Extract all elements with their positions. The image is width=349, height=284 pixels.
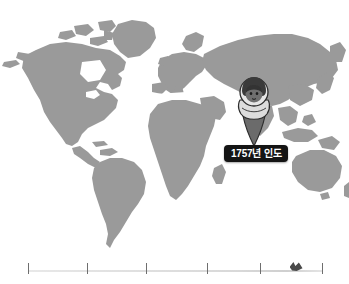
madagascar-shape [212, 164, 226, 184]
southeast-asia-shape [278, 106, 298, 126]
philippines-shape [302, 114, 316, 126]
timeline-tick [207, 263, 208, 274]
central-america-shape [72, 146, 100, 168]
left-eye-icon [250, 92, 253, 95]
africa-shape [148, 100, 216, 200]
history-timeline[interactable] [0, 255, 349, 284]
new-zealand-shape [344, 182, 349, 198]
australia-shape [292, 150, 342, 192]
aleutians-shape [2, 60, 20, 68]
china-east-shape [288, 84, 314, 106]
timeline-tick [87, 263, 88, 274]
timeline-tick [28, 263, 29, 274]
north-america-shape [22, 42, 126, 146]
arctic-island-c [58, 30, 76, 40]
location-pin-svg [233, 72, 275, 148]
landmasses [2, 20, 349, 248]
timeline-tick [322, 263, 323, 274]
caribbean-islands [100, 148, 118, 156]
tasmania-shape [320, 192, 330, 200]
world-map-svg [0, 0, 349, 255]
arctic-island-a [74, 24, 94, 36]
indonesia-shape [282, 128, 318, 142]
ellesmere-shape [98, 20, 116, 32]
south-america-shape [92, 158, 146, 248]
greenland-shape [112, 20, 156, 58]
timeline-tick [146, 263, 147, 274]
place-label-badge[interactable]: 1757년 인도 [224, 145, 288, 162]
slide-canvas: 1757년 인도 [0, 0, 349, 284]
location-pin-marker[interactable] [233, 72, 275, 148]
right-eye-icon [256, 92, 259, 95]
scandinavia-shape [182, 32, 204, 52]
arctic-island-d [104, 30, 114, 40]
place-label-text: 1757년 인도 [231, 149, 281, 159]
timeline-track[interactable] [28, 270, 322, 272]
world-map [0, 0, 349, 255]
cuba-shape [92, 141, 108, 147]
timeline-tick [260, 263, 261, 274]
new-guinea-shape [318, 136, 340, 150]
